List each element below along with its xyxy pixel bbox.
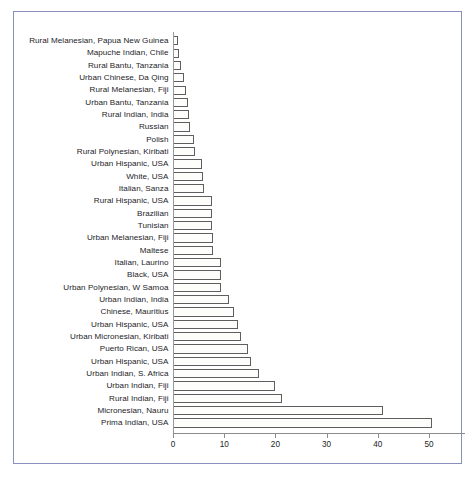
bar-row: Mapuche Indian, Chile bbox=[14, 47, 461, 59]
bar-track bbox=[173, 331, 463, 343]
x-tick-label: 30 bbox=[315, 440, 339, 449]
bar bbox=[173, 406, 383, 415]
bar-track bbox=[173, 306, 463, 318]
bar bbox=[173, 122, 190, 131]
bar-category-label: Rural Polynesian, Kiribati bbox=[17, 146, 169, 158]
bar-track bbox=[173, 35, 463, 47]
bar-track bbox=[173, 368, 463, 380]
bar bbox=[173, 394, 282, 403]
bar-category-label: Urban Indian, S. Africa bbox=[17, 368, 169, 380]
bar bbox=[173, 258, 221, 267]
bar-chart-plot-area: Rural Melanesian, Papua New GuineaMapuch… bbox=[14, 12, 461, 463]
figure-frame: Rural Melanesian, Papua New GuineaMapuch… bbox=[13, 11, 462, 464]
bar-category-label: Rural Bantu, Tanzania bbox=[17, 60, 169, 72]
bar bbox=[173, 73, 184, 82]
bar-track bbox=[173, 47, 463, 59]
x-tick-mark bbox=[173, 434, 174, 438]
x-tick-label: 40 bbox=[366, 440, 390, 449]
bar-row: White, USA bbox=[14, 171, 461, 183]
bar bbox=[173, 209, 212, 218]
bar-row: Urban Indian, S. Africa bbox=[14, 368, 461, 380]
bar-row: Urban Bantu, Tanzania bbox=[14, 97, 461, 109]
x-tick-label: 10 bbox=[212, 440, 236, 449]
bar-track bbox=[173, 158, 463, 170]
bar bbox=[173, 270, 221, 279]
bar bbox=[173, 147, 195, 156]
bar-category-label: Urban Polynesian, W Samoa bbox=[17, 282, 169, 294]
bar-row: Prima Indian, USA bbox=[14, 417, 461, 429]
bar-track bbox=[173, 84, 463, 96]
bar-track bbox=[173, 195, 463, 207]
bar-category-label: Urban Micronesian, Kiribati bbox=[17, 331, 169, 343]
bar-category-label: Maltese bbox=[17, 245, 169, 257]
x-tick-label: 20 bbox=[263, 440, 287, 449]
bar-track bbox=[173, 232, 463, 244]
bar-track bbox=[173, 282, 463, 294]
bar bbox=[173, 381, 275, 390]
bar-track bbox=[173, 208, 463, 220]
bar-row: Rural Polynesian, Kiribati bbox=[14, 146, 461, 158]
bar-category-label: Urban Melanesian, Fiji bbox=[17, 232, 169, 244]
bar bbox=[173, 221, 212, 230]
bar-row: Rural Melanesian, Fiji bbox=[14, 84, 461, 96]
bar-track bbox=[173, 171, 463, 183]
bar bbox=[173, 184, 204, 193]
x-tick-mark bbox=[224, 434, 225, 438]
x-axis-line bbox=[173, 433, 465, 434]
bar-row: Rural Bantu, Tanzania bbox=[14, 60, 461, 72]
bar-row: Rural Indian, Fiji bbox=[14, 393, 461, 405]
y-axis-line bbox=[173, 32, 174, 433]
bar-track bbox=[173, 294, 463, 306]
bar bbox=[173, 307, 234, 316]
bar bbox=[173, 369, 259, 378]
bar-row: Rural Melanesian, Papua New Guinea bbox=[14, 35, 461, 47]
x-tick-mark bbox=[429, 434, 430, 438]
bar-row: Urban Polynesian, W Samoa bbox=[14, 282, 461, 294]
bar bbox=[173, 172, 203, 181]
bar bbox=[173, 344, 248, 353]
bar-track bbox=[173, 97, 463, 109]
bar-category-label: Russian bbox=[17, 121, 169, 133]
bar-track bbox=[173, 134, 463, 146]
bar bbox=[173, 295, 229, 304]
bar-track bbox=[173, 269, 463, 281]
bar-category-label: Tunisian bbox=[17, 220, 169, 232]
bar-track bbox=[173, 380, 463, 392]
bar-row: Urban Indian, Fiji bbox=[14, 380, 461, 392]
bar-row: Urban Micronesian, Kiribati bbox=[14, 331, 461, 343]
x-tick-label: 50 bbox=[417, 440, 441, 449]
bar-row: Brazilian bbox=[14, 208, 461, 220]
bar bbox=[173, 320, 238, 329]
bar-row: Puerto Rican, USA bbox=[14, 343, 461, 355]
bar-row: Black, USA bbox=[14, 269, 461, 281]
bar-category-label: Urban Hispanic, USA bbox=[17, 319, 169, 331]
bar bbox=[173, 283, 221, 292]
bar-row: Rural Hispanic, USA bbox=[14, 195, 461, 207]
bar-category-label: Rural Hispanic, USA bbox=[17, 195, 169, 207]
bar-category-label: Brazilian bbox=[17, 208, 169, 220]
bar bbox=[173, 159, 202, 168]
x-tick-mark bbox=[327, 434, 328, 438]
bar-row: Russian bbox=[14, 121, 461, 133]
bar-category-label: Urban Indian, India bbox=[17, 294, 169, 306]
bar-row: Urban Melanesian, Fiji bbox=[14, 232, 461, 244]
bar-track bbox=[173, 417, 463, 429]
bar-category-label: Chinese, Mauritius bbox=[17, 306, 169, 318]
bar-row: Urban Hispanic, USA bbox=[14, 319, 461, 331]
bar-track bbox=[173, 356, 463, 368]
x-tick-mark bbox=[275, 434, 276, 438]
bar-row: Micronesian, Nauru bbox=[14, 405, 461, 417]
bar-track bbox=[173, 146, 463, 158]
bar-row: Maltese bbox=[14, 245, 461, 257]
bar bbox=[173, 98, 188, 107]
bar-category-label: Rural Melanesian, Papua New Guinea bbox=[17, 35, 169, 47]
bar bbox=[173, 135, 194, 144]
bar-category-label: Urban Chinese, Da Qing bbox=[17, 72, 169, 84]
bar-category-label: Urban Indian, Fiji bbox=[17, 380, 169, 392]
bar-track bbox=[173, 109, 463, 121]
bar-row: Urban Chinese, Da Qing bbox=[14, 72, 461, 84]
bar-category-label: Prima Indian, USA bbox=[17, 417, 169, 429]
bar-row: Chinese, Mauritius bbox=[14, 306, 461, 318]
bar bbox=[173, 418, 432, 427]
bar bbox=[173, 61, 181, 70]
